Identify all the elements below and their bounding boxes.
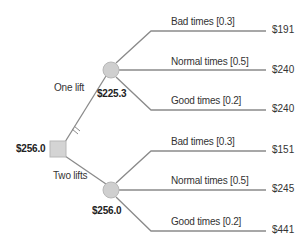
chance-node-two-lifts	[103, 182, 119, 198]
outcome-label-lower-normal: Normal times [0.5]	[171, 175, 249, 186]
option-label-two-lifts: Two lifts	[53, 170, 87, 181]
payoff-upper-good: $240	[272, 103, 294, 114]
payoff-upper-normal: $240	[272, 64, 294, 75]
decision-node-value: $256.0	[16, 143, 45, 154]
outcome-label-lower-good: Good times [0.2]	[171, 216, 241, 227]
outcome-label-upper-normal: Normal times [0.5]	[171, 56, 249, 67]
chance-node-one-lift	[103, 62, 119, 78]
pruned-branch-marker-icon	[72, 126, 80, 134]
payoff-upper-bad: $191	[272, 24, 294, 35]
expected-value-one-lift: $225.3	[97, 88, 126, 99]
decision-node	[50, 141, 66, 157]
expected-value-two-lifts: $256.0	[92, 205, 121, 216]
decision-tree-graphic	[0, 0, 306, 249]
outcome-label-lower-bad: Bad times [0.3]	[171, 136, 235, 147]
option-label-one-lift: One lift	[54, 82, 84, 93]
outcome-label-upper-good: Good times [0.2]	[171, 95, 241, 106]
payoff-lower-good: $441	[272, 224, 294, 235]
payoff-lower-bad: $151	[272, 144, 294, 155]
payoff-lower-normal: $245	[272, 183, 294, 194]
outcome-label-upper-bad: Bad times [0.3]	[171, 16, 235, 27]
